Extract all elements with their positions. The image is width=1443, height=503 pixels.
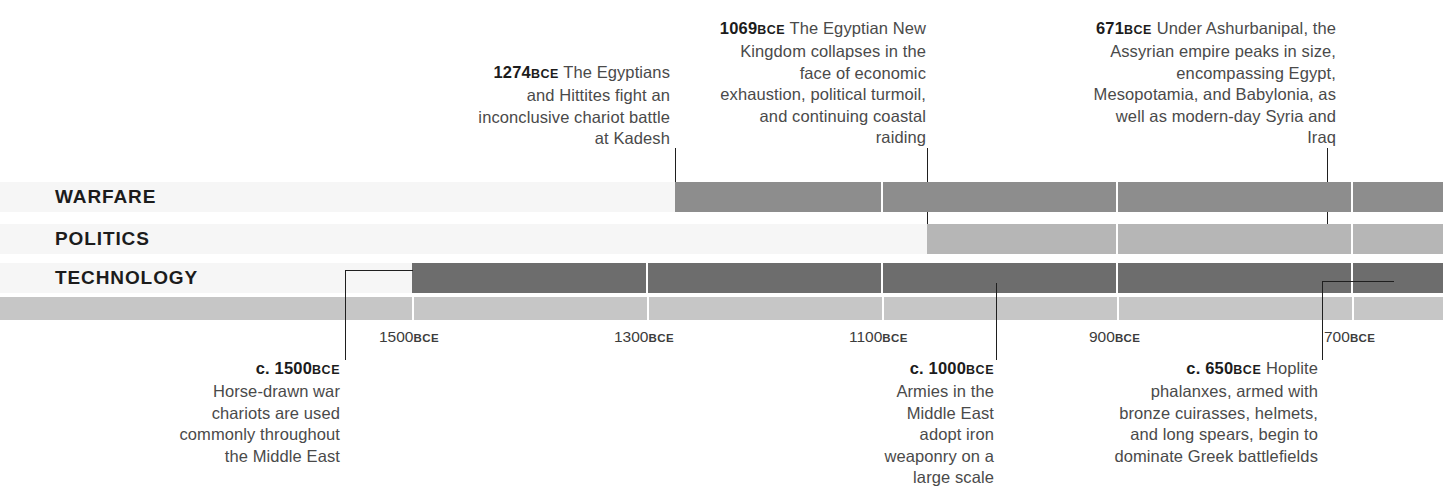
bar-separator <box>646 263 648 293</box>
annotation-era: BCE <box>1124 23 1152 37</box>
axis-label-era: BCE <box>1350 332 1375 344</box>
annotation-date: 1274 <box>493 63 531 81</box>
axis-label-value: 900 <box>1089 328 1115 345</box>
annotation-date: c. 1500 <box>256 359 312 377</box>
annotation-date: c. 650 <box>1186 359 1233 377</box>
axis-label-era: BCE <box>648 332 673 344</box>
annotation-text: Under Ashurbanipal, the Assyrian empire … <box>1094 19 1336 146</box>
annotation-1069-bce: 1069BCE The Egyptian New Kingdom collaps… <box>718 18 926 149</box>
axis-label-700: 700BCE <box>1324 328 1375 346</box>
axis-label-value: 1100 <box>849 328 882 345</box>
annotation-671-bce: 671BCE Under Ashurbanipal, the Assyrian … <box>1090 18 1336 149</box>
annotation-c650-bce: c. 650BCE Hoplite phalanxes, armed with … <box>1102 358 1318 467</box>
axis-label-1300: 1300BCE <box>614 328 674 346</box>
axis-band <box>0 297 1443 320</box>
axis-label-era: BCE <box>1115 332 1140 344</box>
axis-label-1500: 1500BCE <box>379 328 439 346</box>
bar-separator <box>1116 224 1118 254</box>
annotation-date: c. 1000 <box>910 359 966 377</box>
bar-separator <box>1116 182 1118 212</box>
row-label-technology: TECHNOLOGY <box>55 267 198 289</box>
bar-separator <box>1351 182 1353 212</box>
annotation-text: Armies in the Middle East adopt iron wea… <box>862 381 994 489</box>
axis-label-900: 900BCE <box>1089 328 1140 346</box>
annotation-era: BCE <box>1233 363 1261 377</box>
leader-line-c650-bce <box>1322 281 1323 360</box>
annotation-era: BCE <box>757 23 785 37</box>
row-label-warfare: WARFARE <box>55 186 156 208</box>
leader-line-c1500-bce-elbow <box>345 270 413 271</box>
row-label-politics: POLITICS <box>55 228 150 250</box>
axis-label-era: BCE <box>413 332 438 344</box>
annotation-era: BCE <box>312 363 340 377</box>
annotation-era: BCE <box>531 67 559 81</box>
annotation-text: Horse-drawn war chariots are used common… <box>158 381 340 467</box>
annotation-c1000-bce: c. 1000BCE Armies in the Middle East ado… <box>862 358 994 489</box>
bar-separator <box>1116 263 1118 293</box>
axis-tick-900 <box>1117 297 1119 320</box>
axis-label-value: 1300 <box>614 328 648 345</box>
annotation-text: The Egyptian New Kingdom collapses in th… <box>720 19 926 146</box>
annotation-c1500-bce: c. 1500BCE Horse-drawn war chariots are … <box>158 358 340 467</box>
bar-separator <box>1351 263 1353 293</box>
leader-line-c1000-bce <box>996 283 997 360</box>
axis-tick-1500 <box>412 297 414 320</box>
bar-separator <box>881 263 883 293</box>
leader-line-1274-bce <box>675 148 676 186</box>
annotation-1274-bce: 1274BCE The Egyptians and Hittites fight… <box>468 62 670 150</box>
axis-label-value: 1500 <box>379 328 413 345</box>
axis-label-1100: 1100BCE <box>849 328 908 346</box>
axis-tick-1300 <box>647 297 649 320</box>
axis-label-value: 700 <box>1324 328 1350 345</box>
bar-separator <box>881 182 883 212</box>
annotation-date: 1069 <box>720 19 758 37</box>
leader-line-c1500-bce <box>345 270 346 360</box>
annotation-era: BCE <box>966 363 994 377</box>
timeline-figure: 1274BCE The Egyptians and Hittites fight… <box>0 0 1443 503</box>
annotation-date: 671 <box>1096 19 1124 37</box>
bar-separator <box>1351 224 1353 254</box>
bar-politics <box>927 224 1443 254</box>
axis-tick-1100 <box>882 297 884 320</box>
axis-tick-700 <box>1352 297 1354 320</box>
axis-label-era: BCE <box>882 332 907 344</box>
leader-line-c650-bce-elbow <box>1322 281 1394 282</box>
bar-warfare <box>675 182 1443 212</box>
bar-technology <box>412 263 1443 293</box>
